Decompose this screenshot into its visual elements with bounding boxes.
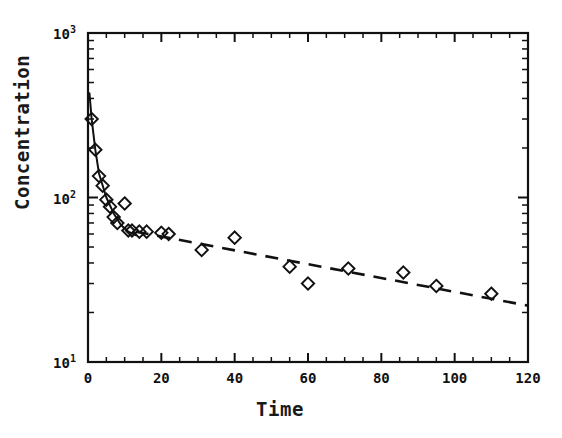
y-tick-mantissa: 10 [53, 190, 70, 206]
x-axis-tick-label: 120 [515, 370, 540, 386]
x-axis-tick-label: 80 [373, 370, 390, 386]
y-axis-tick-label: 103 [0, 24, 76, 42]
x-axis-tick-label: 100 [442, 370, 467, 386]
x-axis-tick-label: 20 [153, 370, 170, 386]
terminal-elimination-fit-line [136, 232, 528, 306]
axis-frame [88, 33, 528, 362]
data-point-marker [302, 277, 314, 289]
data-point-markers [85, 113, 497, 300]
x-axis-ticks [88, 33, 528, 362]
data-point-marker [118, 197, 130, 209]
x-axis-tick-label: 0 [84, 370, 92, 386]
y-axis-tick-label: 102 [0, 189, 76, 207]
data-point-marker [397, 266, 409, 278]
data-point-marker [228, 231, 240, 243]
y-axis-tick-label: 101 [0, 353, 76, 371]
y-tick-exponent: 1 [70, 353, 76, 364]
y-axis-title: Concentration [11, 55, 33, 210]
figure-container: Concentration Time 020406080100120 10110… [0, 0, 562, 438]
distribution-phase-fit-line [89, 93, 135, 235]
y-tick-exponent: 2 [70, 189, 76, 200]
x-axis-title: Time [256, 398, 304, 420]
y-axis-ticks [88, 33, 528, 362]
x-axis-tick-label: 40 [226, 370, 243, 386]
y-tick-mantissa: 10 [53, 355, 70, 371]
y-tick-exponent: 3 [70, 24, 76, 35]
x-axis-tick-label: 60 [300, 370, 317, 386]
y-tick-mantissa: 10 [53, 26, 70, 42]
